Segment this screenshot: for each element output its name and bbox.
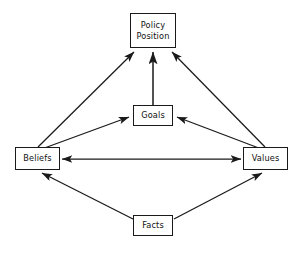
node-goals[interactable]: Goals: [133, 105, 173, 126]
node-policy-position[interactable]: Policy Position: [130, 13, 176, 48]
node-facts[interactable]: Facts: [133, 215, 173, 236]
edge-facts-to-beliefs: [42, 173, 133, 219]
diagram-canvas: Policy Position Goals Beliefs Values Fac…: [0, 0, 297, 254]
node-beliefs[interactable]: Beliefs: [15, 147, 60, 170]
node-beliefs-label: Beliefs: [23, 153, 51, 164]
node-values-label: Values: [252, 153, 280, 164]
node-goals-label: Goals: [141, 110, 165, 121]
edge-facts-to-values: [174, 173, 262, 219]
node-policy-position-label-line2: Position: [136, 31, 169, 42]
node-values[interactable]: Values: [243, 147, 288, 170]
node-facts-label: Facts: [142, 220, 164, 231]
node-policy-position-label-line1: Policy: [141, 20, 165, 31]
